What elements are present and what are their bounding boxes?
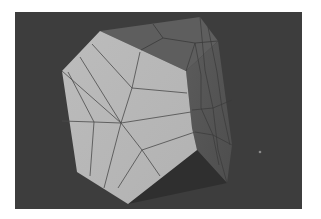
polyhedron-render [0, 0, 321, 219]
cursor-marker [259, 151, 262, 154]
